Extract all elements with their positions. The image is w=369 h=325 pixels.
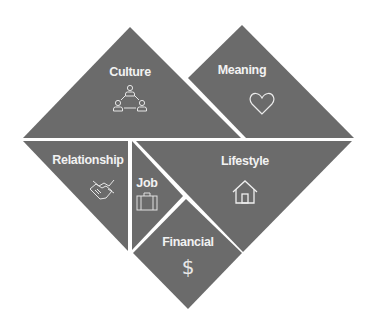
culture-label: Culture <box>109 66 151 79</box>
job-label: Job <box>136 177 157 190</box>
lifestyle-label: Lifestyle <box>221 155 269 168</box>
relationship-label: Relationship <box>52 154 123 167</box>
meaning-label: Meaning <box>218 64 267 77</box>
financial-label: Financial <box>162 236 213 249</box>
dollar-icon: $ <box>182 257 195 278</box>
briefcase-icon <box>136 191 158 211</box>
people-network-icon <box>113 84 147 114</box>
dollar-glyph: $ <box>182 255 195 279</box>
heart-diagram: Culture Meaning Relationship Job Lifesty… <box>0 0 369 325</box>
heart-icon <box>249 92 275 116</box>
handshake-icon <box>88 177 116 201</box>
house-icon <box>231 179 259 205</box>
